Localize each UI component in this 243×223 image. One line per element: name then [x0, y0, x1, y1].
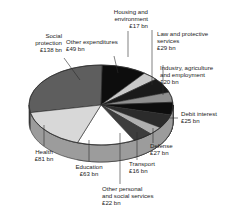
label-value: £22 bn — [102, 199, 121, 206]
label-line: environment — [114, 15, 148, 22]
label-line: Social — [45, 32, 62, 39]
label-line: Health — [35, 148, 53, 155]
label-value: £20 bn — [160, 78, 179, 85]
label-line: Defense — [150, 142, 173, 149]
callout-label-industry: Industry, agriculture and employment £20… — [160, 64, 214, 85]
pie-slice-social-protection[interactable]: Social protection £138 bn — [29, 65, 102, 113]
callout-label-social-protection: Social protection £138 bn — [35, 32, 62, 53]
label-line: Industry, agriculture — [160, 64, 214, 71]
label-line: Law and protective — [157, 30, 209, 37]
label-line: Housing and — [114, 8, 148, 15]
callout-label-housing: Housing and environment £17 bn — [114, 8, 149, 29]
label-line: Other personal — [102, 185, 142, 192]
label-value: £81 bn — [35, 155, 54, 162]
callout-label-other-personal: Other personal and social services £22 b… — [102, 185, 153, 206]
label-line: and employment — [160, 71, 205, 78]
label-value: £63 bn — [80, 170, 99, 177]
label-line: protection — [35, 39, 62, 46]
label-value: £17 bn — [129, 22, 148, 29]
pie-top-surface: Social protection £138 bnOther expenditu… — [29, 65, 173, 145]
label-value: £16 bn — [129, 167, 148, 174]
callout-label-health: Health £81 bn — [35, 148, 54, 162]
pie-chart-svg: Social protection £138 bnOther expenditu… — [0, 0, 243, 223]
callout-label-defense: Defense £27 bn — [150, 142, 173, 156]
label-value: £49 bn — [66, 45, 85, 52]
callout-label-law: Law and protective services £29 bn — [157, 30, 209, 51]
label-line: Debit interest — [181, 110, 217, 117]
label-line: Other expenditures — [66, 38, 118, 45]
label-value: £29 bn — [157, 44, 176, 51]
label-value: £138 bn — [40, 46, 62, 53]
label-value: £27 bn — [150, 149, 169, 156]
callout-label-education: Education £63 bn — [75, 163, 102, 177]
label-value: £25 bn — [181, 117, 200, 124]
callout-label-transport: Transport £16 bn — [129, 160, 155, 174]
callout-label-other-expenditures: Other expenditures £49 bn — [66, 38, 118, 52]
label-line: and social services — [102, 192, 153, 199]
pie-chart-figure: Social protection £138 bnOther expenditu… — [0, 0, 243, 223]
label-line: services — [157, 37, 179, 44]
callout-label-debit-interest: Debit interest £25 bn — [181, 110, 217, 124]
label-line: Education — [75, 163, 102, 170]
label-line: Transport — [129, 160, 155, 167]
